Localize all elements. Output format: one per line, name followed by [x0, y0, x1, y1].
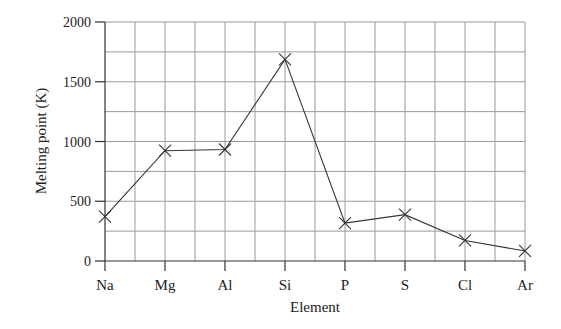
x-tick-label: Si	[279, 277, 292, 293]
y-tick-label: 1000	[63, 135, 91, 150]
x-tick-label: Ar	[517, 277, 533, 293]
y-tick-label: 0	[84, 254, 91, 269]
y-axis-ticks: 0500100015002000	[63, 15, 105, 269]
x-tick-label: P	[341, 277, 349, 293]
y-tick-label: 500	[70, 194, 91, 209]
x-axis-label: Element	[290, 299, 341, 315]
y-tick-label: 2000	[63, 15, 91, 30]
y-tick-label: 1500	[63, 75, 91, 90]
x-tick-label: Al	[218, 277, 233, 293]
x-axis-ticks: NaMgAlSiPSClAr	[96, 261, 533, 293]
x-tick-label: Na	[96, 277, 114, 293]
y-axis-label: Melting point (K)	[33, 88, 50, 195]
melting-point-chart: 0500100015002000 NaMgAlSiPSClAr Element …	[0, 0, 561, 329]
x-tick-label: S	[401, 277, 409, 293]
x-tick-label: Mg	[155, 277, 176, 293]
x-tick-label: Cl	[458, 277, 472, 293]
